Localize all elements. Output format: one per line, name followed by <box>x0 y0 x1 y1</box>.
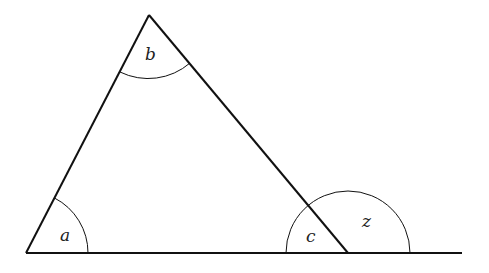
angle-b-arc <box>120 63 190 79</box>
angle-b-label: b <box>145 44 156 64</box>
side-ab <box>26 15 149 253</box>
angle-z-label: z <box>361 211 372 231</box>
angle-a-label: a <box>60 225 70 245</box>
angle-c-label: c <box>306 226 316 246</box>
triangle-diagram: a b c z <box>0 0 489 273</box>
side-bc <box>149 15 348 253</box>
